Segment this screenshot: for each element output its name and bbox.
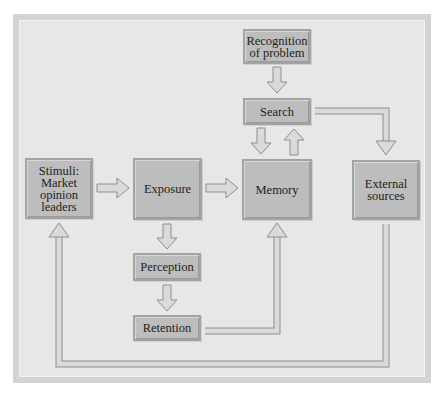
arrow-exposure-to-perception: [157, 224, 177, 249]
node-retention: Retention: [133, 315, 201, 341]
node-external-sources: External sources: [352, 160, 420, 220]
arrow-external-to-stimuli: [49, 223, 386, 364]
node-label-line: opinion: [39, 189, 79, 201]
node-recognition-of-problem: Recognition of problem: [243, 29, 311, 64]
node-stimuli: Stimuli: Market opinion leaders: [25, 158, 93, 219]
arrow-exposure-to-memory: [206, 178, 238, 198]
node-label: Memory: [255, 184, 298, 196]
arrow-search-to-memory: [251, 128, 271, 154]
node-label: Exposure: [144, 183, 191, 195]
node-perception: Perception: [133, 253, 201, 281]
arrow-stimuli-to-exposure: [97, 178, 129, 198]
arrow-retention-to-memory: [205, 223, 287, 331]
arrow-memory-to-search: [284, 129, 304, 155]
node-search: Search: [243, 98, 311, 125]
node-label-line: of problem: [246, 47, 307, 59]
node-label-line: Market: [39, 177, 79, 189]
node-label: Search: [260, 106, 294, 118]
node-memory: Memory: [242, 159, 312, 220]
node-label-line: leaders: [39, 201, 79, 213]
arrow-search-to-external: [315, 111, 396, 155]
node-label: Retention: [143, 322, 192, 334]
node-label-line: Recognition: [246, 35, 307, 47]
node-label: Perception: [140, 261, 193, 273]
node-exposure: Exposure: [133, 158, 202, 220]
node-label-line: Stimuli:: [39, 165, 79, 177]
node-label-line: sources: [365, 190, 407, 202]
arrow-perception-to-retention: [157, 285, 177, 311]
arrow-recognition-to-search: [267, 67, 287, 93]
